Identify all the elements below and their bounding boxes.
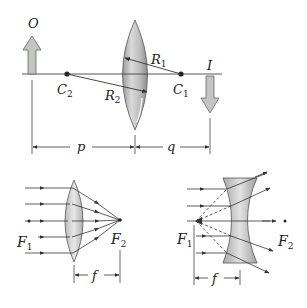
focal-f1-dot (28, 220, 31, 223)
focal-f2-label: F2 (110, 231, 126, 249)
converging-lens-figure: F1 F2 f (16, 180, 126, 283)
focal-length-label: f (91, 268, 99, 283)
radius-r2-label: R2 (104, 88, 121, 105)
focal-f1-label: F1 (16, 234, 32, 252)
diverging-lens-figure: F1 F2 f (176, 172, 293, 286)
focal-length-label: f (211, 271, 219, 286)
biconvex-lens (123, 20, 148, 130)
diverging-lens (223, 178, 257, 263)
object-arrow (23, 36, 41, 74)
object-label: O (28, 16, 39, 31)
thick-lens-figure: O I C2 C1 R1 R2 p q (22, 16, 222, 154)
focal-f1-label: F1 (176, 231, 192, 249)
center-c1-label: C1 (173, 82, 189, 99)
object-distance-label: p (77, 139, 86, 154)
center-c2-label: C2 (57, 82, 73, 99)
radius-r1-label: R1 (150, 52, 167, 69)
image-distance-label: q (167, 139, 175, 154)
focal-f2-dot (118, 218, 122, 222)
focal-f2-label: F2 (277, 233, 293, 251)
image-label: I (206, 58, 213, 73)
image-arrow (201, 76, 219, 113)
lens-diagram: O I C2 C1 R1 R2 p q (0, 0, 307, 308)
focal-f2-dot (284, 220, 287, 223)
